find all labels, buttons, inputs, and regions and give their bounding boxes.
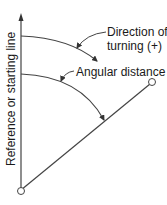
- angular-distance-diagram: Direction of turning (+) Angular distanc…: [0, 0, 167, 205]
- direction-leader: [77, 32, 106, 48]
- reference-arrowhead-icon: [19, 13, 24, 21]
- origin-point: [18, 188, 25, 195]
- direction-label-line2: turning (+): [107, 39, 162, 53]
- reference-line-label: Reference or starting line: [4, 32, 18, 166]
- angular-distance-label: Angular distance: [76, 65, 166, 79]
- end-point: [149, 79, 156, 86]
- direction-arc: [21, 36, 97, 61]
- measured-line: [21, 84, 150, 190]
- angular-distance-leader: [61, 71, 74, 81]
- angular-distance-arc: [21, 74, 104, 120]
- direction-label-line1: Direction of: [107, 25, 167, 39]
